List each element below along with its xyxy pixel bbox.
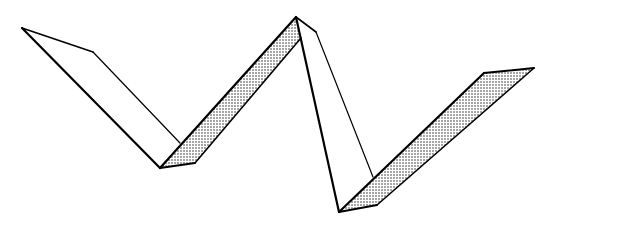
face-4-shaded-face [339,68,534,212]
inner-edge-2 [195,38,301,163]
ribbon-drawing [0,0,617,239]
face-1-plain-face [22,28,180,168]
ribbon-faces [22,17,534,212]
face-3-plain-face [296,17,373,212]
inner-edge-4 [377,68,534,205]
outer-edge-4 [339,73,484,212]
outer-edge-2 [160,17,296,168]
outer-edge-1 [22,28,160,168]
zigzag-ribbon-figure [0,0,617,239]
